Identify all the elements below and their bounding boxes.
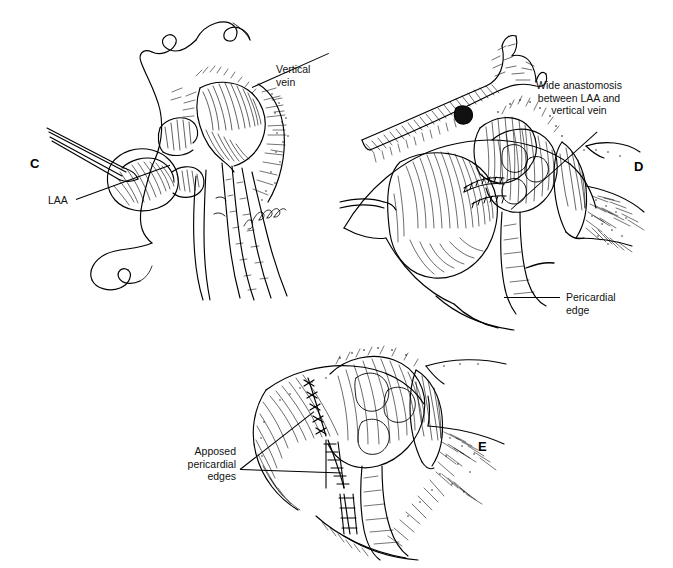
- label-vertical-vein: Vertical vein: [276, 63, 336, 88]
- panel-c-artwork: [0, 0, 340, 320]
- panel-d: D Wide anastomosis between LAA and verti…: [340, 0, 673, 340]
- label-wide-anastomosis: Wide anastomosis between LAA and vertica…: [519, 79, 639, 117]
- panel-letter-d: D: [634, 160, 644, 173]
- figure-root: C Vertical vein LAA: [0, 0, 673, 568]
- figure-caption: [0, 560, 673, 568]
- panel-letter-e: E: [478, 440, 487, 453]
- panel-d-artwork: [340, 0, 673, 340]
- label-laa: LAA: [48, 194, 88, 207]
- label-pericardial-edge: Pericardial edge: [566, 291, 636, 316]
- leader-line-pericardial-edge: [504, 297, 560, 298]
- panel-e: E Apposed pericardial edges: [130, 330, 530, 560]
- panel-letter-c: C: [30, 157, 40, 170]
- label-apposed-pericardial-edges: Apposed pericardial edges: [158, 445, 236, 483]
- panel-c: C Vertical vein LAA: [0, 0, 340, 320]
